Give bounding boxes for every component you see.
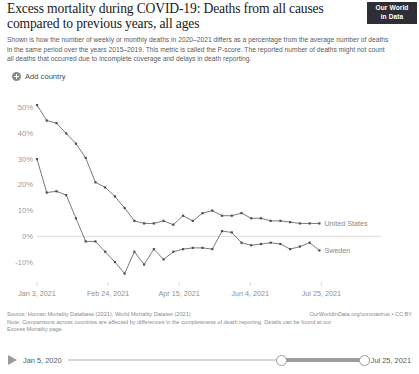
series-marker[interactable] (46, 119, 48, 121)
x-axis-tick-label: Apr 15, 2021 (159, 289, 200, 298)
series-marker[interactable] (299, 245, 301, 247)
series-marker[interactable] (46, 191, 48, 193)
series-marker[interactable] (279, 243, 281, 245)
chart-page: Excess mortality during COVID-19: Deaths… (0, 0, 419, 374)
timeline-control[interactable]: Jan 5, 2020 Jul 25, 2021 (0, 346, 419, 374)
series-marker[interactable] (94, 240, 96, 242)
series-marker[interactable] (75, 143, 77, 145)
x-axis-tick-label: Feb 24, 2021 (87, 289, 129, 298)
series-marker[interactable] (143, 222, 145, 224)
series-marker[interactable] (133, 251, 135, 253)
series-marker[interactable] (201, 212, 203, 214)
line-chart-svg[interactable]: -10%0%10%20%30%40%50%Jan 3, 2021Feb 24, … (0, 88, 419, 303)
series-marker[interactable] (231, 215, 233, 217)
series-marker[interactable] (221, 230, 223, 232)
slider-selected-range[interactable] (282, 358, 364, 363)
series-label-united-states[interactable]: United States (324, 219, 368, 228)
series-marker[interactable] (260, 243, 262, 245)
y-axis-tick-label: 10% (18, 206, 33, 215)
series-marker[interactable] (201, 247, 203, 249)
series-marker[interactable] (55, 190, 57, 192)
series-marker[interactable] (65, 194, 67, 196)
series-marker[interactable] (279, 220, 281, 222)
add-country-button[interactable]: Add country (12, 72, 66, 81)
y-axis-tick-label: 0% (22, 232, 33, 241)
series-marker[interactable] (270, 220, 272, 222)
series-marker[interactable] (270, 242, 272, 244)
series-marker[interactable] (36, 104, 38, 106)
series-marker[interactable] (182, 248, 184, 250)
series-marker[interactable] (250, 217, 252, 219)
series-marker[interactable] (114, 195, 116, 197)
series-marker[interactable] (231, 231, 233, 233)
series-marker[interactable] (309, 242, 311, 244)
timeline-end-label: Jul 25, 2021 (371, 356, 411, 365)
series-marker[interactable] (318, 249, 320, 251)
chart-footer: Source: Human Mortality Database (2021),… (7, 311, 412, 333)
series-label-sweden[interactable]: Sweden (324, 246, 350, 255)
note-text: Note: Comparisons across countries are a… (7, 319, 347, 333)
series-marker[interactable] (172, 224, 174, 226)
x-axis-tick-label: Jul 25, 2021 (302, 289, 341, 298)
series-marker[interactable] (85, 157, 87, 159)
series-marker[interactable] (318, 222, 320, 224)
timeline-slider[interactable] (68, 353, 365, 367)
plus-circle-icon (12, 72, 21, 81)
series-marker[interactable] (211, 209, 213, 211)
series-marker[interactable] (192, 220, 194, 222)
series-marker[interactable] (94, 181, 96, 183)
timeline-start-label: Jan 5, 2020 (23, 356, 62, 365)
series-marker[interactable] (192, 247, 194, 249)
y-axis-tick-label: -10% (15, 258, 33, 267)
series-marker[interactable] (162, 220, 164, 222)
series-marker[interactable] (153, 248, 155, 250)
series-marker[interactable] (133, 220, 135, 222)
series-marker[interactable] (36, 158, 38, 160)
owid-logo-line1: Our World (367, 4, 417, 13)
series-marker[interactable] (289, 248, 291, 250)
series-line[interactable] (37, 159, 319, 273)
series-marker[interactable] (182, 215, 184, 217)
y-axis-tick-label: 30% (18, 155, 33, 164)
series-marker[interactable] (75, 217, 77, 219)
series-marker[interactable] (260, 217, 262, 219)
series-marker[interactable] (162, 258, 164, 260)
series-marker[interactable] (114, 261, 116, 263)
x-axis-tick-label: Jun 4, 2021 (231, 289, 269, 298)
add-country-label: Add country (25, 72, 66, 81)
owid-logo-line2: in Data (367, 13, 417, 22)
slider-handle-end[interactable] (359, 355, 370, 366)
series-marker[interactable] (240, 242, 242, 244)
series-marker[interactable] (299, 222, 301, 224)
series-marker[interactable] (104, 251, 106, 253)
y-axis-tick-label: 20% (18, 180, 33, 189)
series-marker[interactable] (124, 272, 126, 274)
series-marker[interactable] (172, 251, 174, 253)
y-axis-tick-label: 50% (18, 103, 33, 112)
series-marker[interactable] (65, 132, 67, 134)
series-marker[interactable] (289, 221, 291, 223)
x-axis-tick-label: Jan 3, 2021 (18, 289, 56, 298)
series-marker[interactable] (221, 215, 223, 217)
y-axis-tick-label: 40% (18, 129, 33, 138)
series-marker[interactable] (104, 186, 106, 188)
source-text: Source: Human Mortality Database (2021),… (7, 311, 191, 318)
slider-handle-start[interactable] (276, 355, 287, 366)
series-marker[interactable] (250, 244, 252, 246)
series-marker[interactable] (153, 222, 155, 224)
owid-logo[interactable]: Our World in Data (367, 2, 417, 24)
series-marker[interactable] (211, 248, 213, 250)
series-marker[interactable] (55, 122, 57, 124)
chart-area[interactable]: -10%0%10%20%30%40%50%Jan 3, 2021Feb 24, … (0, 88, 419, 303)
series-marker[interactable] (124, 207, 126, 209)
series-marker[interactable] (240, 212, 242, 214)
series-marker[interactable] (309, 222, 311, 224)
series-marker[interactable] (85, 240, 87, 242)
series-marker[interactable] (143, 263, 145, 265)
attribution-text[interactable]: OurWorldInData.org/coronavirus • CC BY (309, 311, 412, 318)
series-line[interactable] (37, 105, 319, 225)
page-title: Excess mortality during COVID-19: Deaths… (7, 2, 365, 31)
play-triangle-icon[interactable] (8, 355, 17, 365)
chart-header: Excess mortality during COVID-19: Deaths… (7, 2, 367, 63)
chart-subtitle: Shown is how the number of weekly or mon… (7, 35, 390, 63)
